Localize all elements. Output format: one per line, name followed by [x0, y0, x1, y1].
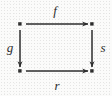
commutative-diagram: f g s r: [0, 0, 112, 96]
edge-label-r: r: [54, 79, 59, 92]
edge-label-g: g: [7, 41, 14, 54]
vertex-top-right: [90, 22, 93, 25]
vertex-bottom-right: [90, 69, 93, 72]
edge-label-s: s: [100, 41, 105, 54]
vertex-bottom-left: [18, 69, 21, 72]
edge-label-f: f: [53, 4, 57, 17]
vertex-top-left: [18, 22, 21, 25]
